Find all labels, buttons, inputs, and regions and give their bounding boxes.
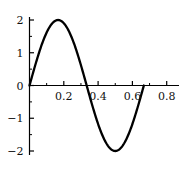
x-axis-group: [29, 81, 179, 86]
x-tick-label: 0.8: [158, 91, 176, 102]
plot-area: [0, 0, 181, 171]
y-tick-label: 0: [17, 80, 24, 91]
y-tick-label: −2: [7, 146, 23, 157]
x-tick-label: 0.6: [124, 91, 142, 102]
sine-wave-chart: 0.20.40.60.8 210−1−2: [0, 0, 181, 171]
y-tick-label: 2: [17, 15, 24, 26]
y-tick-label: 1: [17, 47, 24, 58]
y-tick-label: −1: [7, 113, 23, 124]
x-tick-label: 0.2: [55, 91, 73, 102]
x-tick-label: 0.4: [89, 91, 107, 102]
